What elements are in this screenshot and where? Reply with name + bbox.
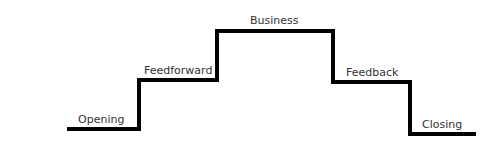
- stage-label-feedforward: Feedforward: [144, 65, 212, 76]
- stage-label-business: Business: [250, 15, 299, 26]
- staircase-line: [0, 0, 494, 145]
- stage-label-opening: Opening: [78, 114, 124, 125]
- stage-label-closing: Closing: [422, 119, 462, 130]
- stage-label-feedback: Feedback: [346, 67, 398, 78]
- staircase-diagram: Opening Feedforward Business Feedback Cl…: [0, 0, 494, 145]
